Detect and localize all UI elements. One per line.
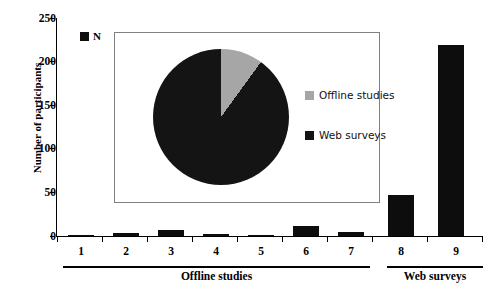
y-tick-mark-0: [50, 236, 55, 237]
series-legend-label: N: [93, 30, 101, 42]
x-tick-label-2: 2: [111, 245, 141, 257]
x-tick-mark-6: [327, 237, 328, 242]
bar-chart-figure: Number of participants 250 200 150 100 5…: [0, 0, 496, 296]
x-tick-label-8: 8: [386, 245, 416, 257]
pie-legend-swatch-offline-icon: [305, 91, 314, 100]
bar-3: [158, 230, 184, 236]
series-legend-swatch-icon: [80, 32, 89, 41]
y-tick-mark-250: [50, 18, 55, 19]
x-tick-label-3: 3: [156, 245, 186, 257]
pie-legend: Offline studies Web surveys: [305, 89, 425, 169]
pie-legend-label-offline: Offline studies: [319, 89, 395, 101]
group-rule-web-surveys: [387, 266, 483, 268]
y-tick-mark-50: [50, 192, 55, 193]
pie-legend-item-web-surveys: Web surveys: [305, 129, 425, 141]
x-tick-label-1: 1: [66, 245, 96, 257]
bar-9: [438, 45, 464, 236]
bar-4: [203, 234, 229, 236]
x-tick-mark-7: [372, 237, 373, 242]
x-tick-label-5: 5: [246, 245, 276, 257]
x-axis-line: [56, 236, 483, 237]
group-rule-offline-studies: [63, 266, 370, 268]
x-tick-mark-8: [427, 237, 428, 242]
x-tick-mark-4: [237, 237, 238, 242]
x-tick-label-6: 6: [291, 245, 321, 257]
bar-2: [113, 233, 139, 236]
x-tick-mark-0: [57, 237, 58, 242]
bar-8: [388, 195, 414, 236]
group-label-offline-studies: Offline studies: [63, 270, 370, 282]
bar-5: [248, 235, 274, 236]
x-tick-mark-3: [192, 237, 193, 242]
y-tick-mark-150: [50, 105, 55, 106]
x-tick-mark-5: [282, 237, 283, 242]
x-tick-label-4: 4: [201, 245, 231, 257]
x-tick-label-9: 9: [441, 245, 471, 257]
inset-pie-panel: Offline studies Web surveys: [114, 32, 380, 203]
x-tick-mark-1: [102, 237, 103, 242]
group-label-web-surveys: Web surveys: [387, 270, 483, 282]
x-tick-mark-9: [482, 237, 483, 242]
series-legend: N: [80, 30, 101, 42]
pie-chart: [153, 49, 289, 185]
y-tick-mark-200: [50, 61, 55, 62]
x-tick-mark-2: [147, 237, 148, 242]
y-tick-mark-100: [50, 148, 55, 149]
pie-legend-swatch-web-icon: [305, 131, 314, 140]
x-tick-label-7: 7: [336, 245, 366, 257]
bar-6: [293, 226, 319, 236]
pie-legend-label-web: Web surveys: [319, 129, 386, 141]
pie-legend-item-offline-studies: Offline studies: [305, 89, 425, 101]
bar-1: [68, 235, 94, 236]
bar-7: [338, 232, 364, 236]
